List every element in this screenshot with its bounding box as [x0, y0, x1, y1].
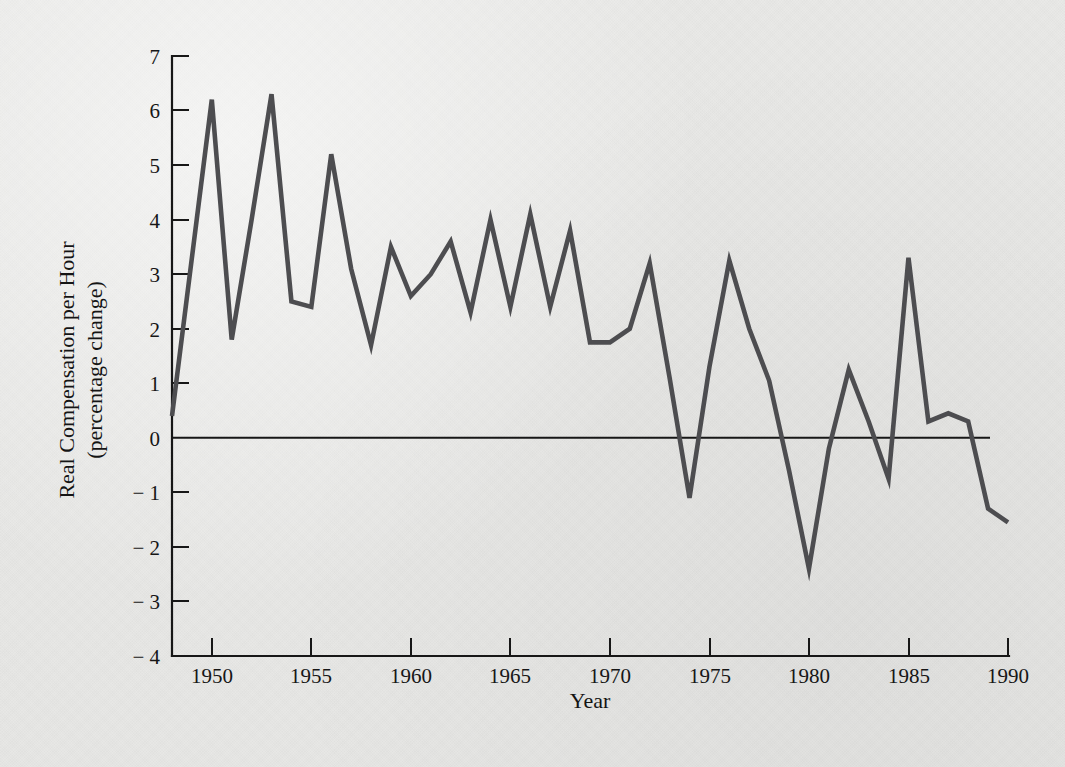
y-tick-label-m1: − 1: [132, 481, 160, 505]
y-axis-title-line1: Real Compensation per Hour: [54, 241, 79, 499]
y-tick-label-0: 0: [150, 427, 161, 451]
x-tick-label-1950: 1950: [191, 664, 233, 688]
x-tick-label-1970: 1970: [589, 664, 631, 688]
y-tick-label-7: 7: [150, 45, 161, 69]
y-axis-title-line2: (percentage change): [82, 281, 107, 459]
line-chart-canvas: Real Compensation per Hour (percentage c…: [0, 0, 1065, 767]
y-tick-label-4: 4: [150, 209, 161, 233]
y-tick-group: [172, 56, 189, 601]
y-tick-label-m4: − 4: [132, 645, 160, 669]
data-series-line: [172, 94, 1008, 569]
x-tick-label-1980: 1980: [788, 664, 830, 688]
y-tick-label-2: 2: [150, 318, 161, 342]
y-tick-label-5: 5: [150, 154, 161, 178]
x-tick-label-1965: 1965: [489, 664, 531, 688]
x-tick-label-1975: 1975: [689, 664, 731, 688]
x-tick-group: [212, 638, 1008, 656]
y-tick-label-m2: − 2: [132, 536, 160, 560]
x-tick-label-1960: 1960: [390, 664, 432, 688]
x-tick-label-1955: 1955: [290, 664, 332, 688]
x-axis-title: Year: [570, 688, 611, 713]
chart-figure: Real Compensation per Hour (percentage c…: [0, 0, 1065, 767]
y-tick-label-6: 6: [150, 99, 161, 123]
y-tick-label-1: 1: [150, 372, 161, 396]
x-tick-label-1990: 1990: [987, 664, 1029, 688]
x-tick-label-1985: 1985: [888, 664, 930, 688]
y-tick-label-m3: − 3: [132, 590, 160, 614]
y-tick-label-3: 3: [150, 263, 161, 287]
